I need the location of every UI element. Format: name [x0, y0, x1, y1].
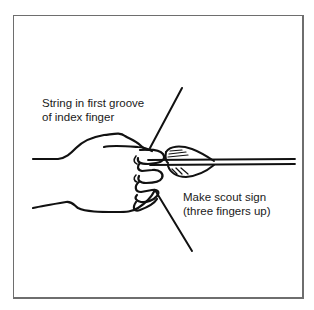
annotation-line: (three fingers up): [183, 204, 271, 218]
arrow-shaft: [148, 159, 295, 165]
annotation-line: Make scout sign: [183, 190, 271, 204]
archery-grip-illustration: [0, 0, 314, 310]
annotation-finger-position: Make scout sign (three fingers up): [183, 190, 271, 218]
annotation-line: String in first groove: [42, 96, 144, 110]
hand-drawing: [33, 134, 164, 212]
annotation-line: of index finger: [42, 110, 144, 124]
annotation-string-position: String in first groove of index finger: [42, 96, 144, 124]
arrow-fletching-icon: [166, 147, 214, 177]
bowstring-upper: [150, 88, 182, 148]
